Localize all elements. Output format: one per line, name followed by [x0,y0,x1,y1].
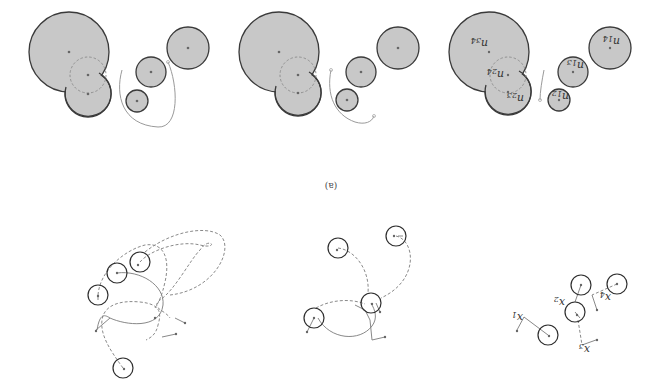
agent-center-dot [97,295,99,297]
endpoint-dot [175,333,177,335]
label-subscript: 13 [567,58,577,67]
agent-center-dot [123,368,125,370]
label-subscript: 2 [554,295,560,304]
center-dot [488,51,490,53]
agent-center-dot [336,249,338,251]
endpoint-dot [596,339,598,341]
endpoint-dot [596,309,598,311]
arrow-segment [307,318,314,332]
label-subscript: 3 [579,342,584,351]
figure: n34 n24 n23 n13 n12 n14 (a) [0,0,663,388]
center-dot [397,47,400,50]
label-subscript: 34 [471,36,481,45]
center-dot [609,47,611,49]
label-x1: x1 [512,310,523,324]
agent-center-dot [313,317,315,319]
label-base: n [577,59,584,72]
endpoint-dot [184,322,186,324]
transition-curve [540,70,544,100]
center-dot [68,51,71,54]
dashed-trajectory [338,248,368,293]
agent-center-dot [393,235,395,237]
solid-trajectory [318,303,375,336]
label-base: n [613,35,620,48]
trajectory-segment [592,295,597,310]
label-base: n [562,90,569,103]
center-dot [558,99,560,101]
svg-text:x2: x2 [554,295,565,309]
center-dot [87,74,90,77]
label-subscript: 4 [600,290,606,299]
center-dot [278,51,281,54]
agent-center-dot [548,335,550,337]
agent-center-dot [616,283,618,285]
center-dot [297,74,300,77]
endpoint-dot [384,336,386,338]
endpoint-dot [95,330,97,332]
center-dot [87,93,90,96]
dashed-trajectory [381,236,410,298]
bottom-panel-3: x1 x2 x3 x4 [512,274,627,356]
label-x2: x2 [554,295,565,309]
center-dot [360,71,363,74]
label-subscript: 1 [512,310,517,319]
top-panel-2 [239,12,419,123]
endpoint-dot [306,331,308,333]
dashed-trajectory [316,301,365,308]
dashed-trajectory [98,245,167,308]
merged-disk-group [29,12,111,117]
bottom-panel-2 [304,226,410,340]
center-dot [346,99,349,102]
figure-canvas: n34 n24 n23 n13 n12 n14 (a) [0,0,663,388]
dashed-trajectory [145,230,225,295]
label-base: n [481,37,488,50]
endpoint-dot [516,330,518,332]
top-panel-3: n34 n24 n23 n13 n12 n14 [449,12,631,115]
label-subscript: 24 [487,67,498,76]
endpoint-dot [379,311,381,313]
center-dot [136,100,139,103]
agent-center-dot [580,284,582,286]
center-dot [150,71,153,74]
agent-center-dot [116,272,118,274]
label-base: n [497,68,504,81]
center-dot [572,71,574,73]
agent-center-dot [576,314,578,316]
dashed-trajectory [140,243,212,318]
dashed-trajectory [578,320,582,345]
label-x4: x4 [600,290,611,304]
center-dot [297,92,300,95]
label-subscript: 14 [603,34,613,43]
center-dot [507,74,509,76]
center-dot [187,47,190,50]
label-base: n [517,92,524,105]
label-x3: x3 [579,342,590,356]
arrow-segment [162,334,176,337]
label-subscript: 23 [507,91,518,100]
arrow-segment [175,318,185,323]
endpoint-dot [154,317,156,319]
caption-text: (a) [325,181,337,191]
agent-center-dot [371,303,373,305]
svg-text:x3: x3 [579,342,590,356]
agent-center-dot [137,264,139,266]
svg-text:x4: x4 [600,290,611,304]
dashed-trajectory [102,302,160,368]
bottom-panel-1 [88,230,225,378]
label-subscript: 12 [552,89,562,98]
top-panel-1 [29,12,209,127]
svg-text:x1: x1 [512,310,523,324]
caption: (a) [325,181,337,191]
